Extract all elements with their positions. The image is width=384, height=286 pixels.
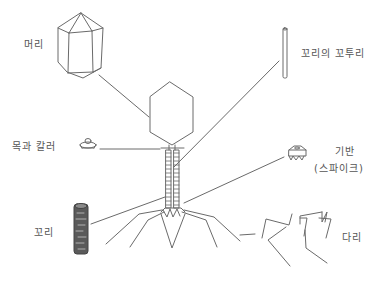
label-tail-core: 꼬리의 꼬투리 bbox=[301, 45, 365, 60]
label-tail: 꼬리 bbox=[34, 224, 54, 239]
phage-head bbox=[150, 82, 193, 145]
phage-diagram: 머리 꼬리의 꼬투리 목과 칼러 기반 (스파이크) 꼬리 다리 bbox=[0, 0, 384, 286]
label-head: 머리 bbox=[24, 36, 44, 51]
label-spikes: (스파이크) bbox=[314, 160, 364, 175]
head-leader-line bbox=[99, 75, 149, 117]
head-detail-illustration bbox=[58, 13, 103, 78]
phage-tail-sheath bbox=[166, 150, 179, 208]
phage-base-plate bbox=[161, 208, 185, 217]
tail-core-leader-line bbox=[174, 61, 279, 167]
neck-collar-illustration bbox=[80, 139, 96, 149]
tail-core-illustration bbox=[283, 28, 287, 78]
base-plate-leader-line bbox=[184, 157, 284, 203]
label-legs: 다리 bbox=[342, 229, 362, 244]
tail-illustration bbox=[74, 204, 88, 255]
base-plate-illustration bbox=[289, 146, 306, 160]
diagram-canvas bbox=[0, 0, 384, 286]
tail-leader-line bbox=[91, 197, 165, 224]
legs-illustration bbox=[240, 212, 331, 266]
label-neck-collar: 목과 칼러 bbox=[12, 138, 56, 153]
label-base-plate: 기반 bbox=[335, 143, 355, 158]
